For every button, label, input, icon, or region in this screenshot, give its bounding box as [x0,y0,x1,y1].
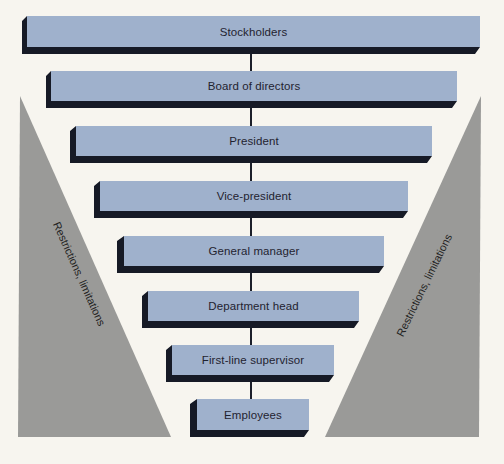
box-label: Board of directors [51,71,457,101]
box-label: Employees [197,399,309,430]
connector-line [250,107,252,127]
level-box-president: President [70,126,432,163]
level-box-first-line-supervisor: First-line supervisor [166,345,334,382]
connector-line [250,52,252,72]
org-hierarchy-diagram: Stockholders Board of directors Presiden… [0,0,504,464]
box-label: Vice-president [100,181,408,211]
connector-line [250,162,252,182]
connector-line [250,272,252,292]
restriction-triangles [0,0,504,464]
level-box-stockholders: Stockholders [22,16,480,54]
box-label: Stockholders [27,16,480,47]
level-box-board-of-directors: Board of directors [46,71,457,108]
box-label: President [76,126,432,156]
level-box-vice-president: Vice-president [94,181,408,218]
level-box-department-head: Department head [142,291,359,328]
box-label: General manager [124,236,384,266]
level-box-employees: Employees [190,399,309,437]
connector-line [250,217,252,237]
box-label: Department head [148,291,359,321]
box-label: First-line supervisor [172,345,334,375]
connector-line [250,327,252,346]
level-box-general-manager: General manager [117,236,384,273]
connector-line [250,381,252,400]
